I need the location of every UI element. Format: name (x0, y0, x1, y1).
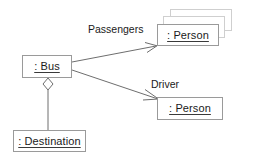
uml-object-diagram: : Bus : Person : Person : Destination Pa… (0, 0, 255, 157)
object-node-destination[interactable]: : Destination (13, 130, 86, 152)
edge-bus-destination (43, 78, 53, 130)
object-node-bus[interactable]: : Bus (22, 55, 72, 78)
object-node-passengers-label: : Person (167, 30, 209, 41)
object-node-destination-label: : Destination (18, 136, 80, 147)
edge-label-passengers: Passengers (88, 24, 143, 35)
edge-bus-passengers (72, 43, 157, 63)
object-node-passengers[interactable]: : Person (157, 24, 219, 46)
hollow-diamond-icon (43, 78, 53, 90)
object-node-driver[interactable]: : Person (157, 97, 223, 120)
object-node-driver-label: : Person (169, 103, 211, 114)
object-node-bus-label: : Bus (34, 61, 60, 72)
edge-label-driver: Driver (151, 79, 179, 90)
edge-bus-passengers-line (72, 46, 156, 62)
edge-bus-driver-line (72, 70, 158, 99)
edge-bus-driver (72, 70, 159, 100)
